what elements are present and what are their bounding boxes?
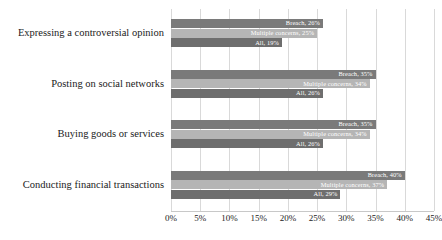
bar-data-label: Breach, 35% <box>338 121 375 127</box>
bar-data-label: All, 26% <box>296 141 323 147</box>
bar-multiple-concerns: Multiple concerns, 34% <box>171 130 370 139</box>
x-tick-label: 20% <box>280 214 297 223</box>
x-tick-label: 30% <box>338 214 355 223</box>
x-tick-label: 25% <box>309 214 326 223</box>
bar-all: All, 26% <box>171 139 323 148</box>
x-tick-label: 45% <box>426 214 442 223</box>
bar-breach: Breach, 40% <box>171 171 405 180</box>
plot-area: Breach, 26%Multiple concerns, 25%All, 19… <box>171 9 434 211</box>
bar-data-label: All, 26% <box>296 90 323 96</box>
bar-breach: Breach, 26% <box>171 19 323 28</box>
bar-all: All, 29% <box>171 190 340 199</box>
bar-all: All, 19% <box>171 38 282 47</box>
category-label: Expressing a controversial opinion <box>18 28 164 39</box>
bar-all: All, 26% <box>171 89 323 98</box>
category-label: Conducting financial transactions <box>23 180 164 191</box>
bar-data-label: Multiple concerns, 37% <box>321 182 387 188</box>
bar-data-label: Multiple concerns, 34% <box>303 81 369 87</box>
x-tick-label: 40% <box>397 214 414 223</box>
bar-breach: Breach, 35% <box>171 120 376 129</box>
bar-multiple-concerns: Multiple concerns, 25% <box>171 29 317 38</box>
bar-data-label: Multiple concerns, 34% <box>303 131 369 137</box>
x-tick-label: 35% <box>367 214 384 223</box>
x-tick-label: 15% <box>250 214 267 223</box>
x-tick-label: 5% <box>194 214 206 223</box>
gridline <box>434 9 435 211</box>
bar-data-label: Breach, 35% <box>338 71 375 77</box>
bar-data-label: All, 19% <box>255 40 282 46</box>
bar-multiple-concerns: Multiple concerns, 34% <box>171 79 370 88</box>
category-label: Buying goods or services <box>58 129 164 140</box>
bar-multiple-concerns: Multiple concerns, 37% <box>171 180 387 189</box>
x-axis-line <box>171 211 434 212</box>
bar-data-label: All, 29% <box>314 191 341 197</box>
x-tick-label: 10% <box>221 214 238 223</box>
gridline <box>405 9 406 211</box>
bar-data-label: Multiple concerns, 25% <box>251 30 317 36</box>
category-label: Posting on social networks <box>51 79 164 90</box>
category-axis: Expressing a controversial opinionPostin… <box>0 0 168 211</box>
bar-data-label: Breach, 26% <box>286 20 323 26</box>
x-tick-label: 0% <box>165 214 177 223</box>
x-axis-tick-labels: 0%5%10%15%20%25%30%35%40%45% <box>0 214 441 234</box>
bar-breach: Breach, 35% <box>171 70 376 79</box>
bar-data-label: Breach, 40% <box>368 172 405 178</box>
